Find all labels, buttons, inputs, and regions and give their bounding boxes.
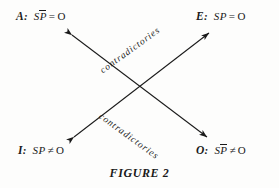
figure-caption: FIGURE 2 [0,166,279,181]
arrow-i-e [74,33,209,137]
figure-square-of-opposition: A:SP=O E:SP=O I:SP≠O O:SP≠O contradictor… [0,0,279,188]
contradictory-arrows [0,0,279,188]
